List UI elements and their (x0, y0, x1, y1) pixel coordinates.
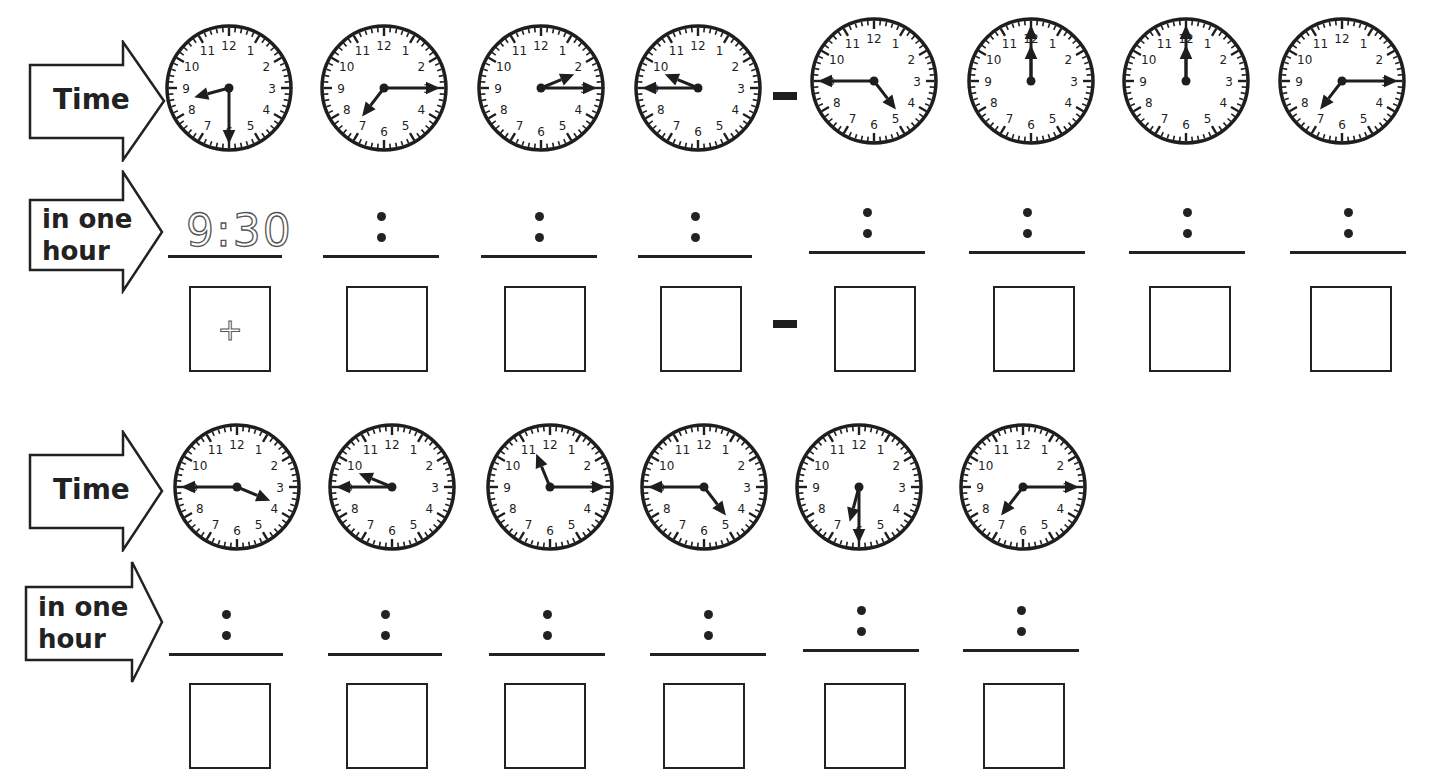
svg-text:11: 11 (521, 443, 536, 457)
answer-box[interactable] (824, 683, 906, 769)
analog-clock-icon: 121234567891011 (318, 22, 450, 154)
svg-text:7: 7 (359, 119, 367, 133)
svg-text:6: 6 (700, 524, 708, 538)
answer-box[interactable] (663, 683, 745, 769)
answer-box[interactable] (189, 683, 271, 769)
svg-text:8: 8 (990, 96, 998, 110)
example-operator-symbol: + (191, 312, 269, 347)
svg-text:12: 12 (376, 39, 391, 53)
svg-text:1: 1 (559, 44, 567, 58)
answer-time-field[interactable] (323, 198, 439, 258)
colon-dot-top (704, 610, 713, 619)
answer-box[interactable] (834, 286, 916, 372)
answer-time-field[interactable] (650, 596, 766, 656)
svg-text:8: 8 (196, 502, 204, 516)
colon-dot-top (857, 606, 866, 615)
colon-dot-top (691, 212, 700, 221)
colon-dot-bottom (691, 233, 700, 242)
answer-box[interactable] (346, 286, 428, 372)
svg-text:12: 12 (384, 438, 399, 452)
svg-text:8: 8 (509, 502, 517, 516)
answer-time-field[interactable] (328, 596, 442, 656)
answer-box[interactable] (504, 683, 586, 769)
colon-dot-bottom (1017, 627, 1026, 636)
svg-text:5: 5 (1360, 112, 1368, 126)
svg-text:10: 10 (659, 459, 674, 473)
equals-separator (773, 92, 797, 100)
answer-time-field[interactable] (1290, 194, 1406, 254)
colon-dot-top (1183, 208, 1192, 217)
svg-text:1: 1 (1041, 443, 1049, 457)
svg-text:8: 8 (663, 502, 671, 516)
svg-text:10: 10 (184, 60, 199, 74)
svg-text:7: 7 (367, 518, 375, 532)
answer-time-field[interactable] (481, 198, 597, 258)
colon-dot-bottom (543, 631, 552, 640)
answer-time-field[interactable] (489, 596, 605, 656)
svg-text:1: 1 (892, 37, 900, 51)
answer-box[interactable] (660, 286, 742, 372)
svg-text:10: 10 (829, 53, 844, 67)
svg-text:2: 2 (425, 459, 433, 473)
svg-text:9: 9 (494, 82, 502, 96)
svg-text:11: 11 (355, 44, 370, 58)
answer-box[interactable] (1310, 286, 1392, 372)
svg-text:9: 9 (182, 82, 190, 96)
svg-text:11: 11 (830, 443, 845, 457)
colon-dot-top (863, 208, 872, 217)
answer-underline (489, 653, 605, 656)
answer-box[interactable] (346, 683, 428, 769)
svg-text:8: 8 (1145, 96, 1153, 110)
svg-text:2: 2 (731, 60, 739, 74)
svg-text:7: 7 (673, 119, 681, 133)
svg-text:4: 4 (731, 103, 739, 117)
example-answer-text: 9:30 (186, 205, 293, 256)
svg-text:4: 4 (1375, 96, 1383, 110)
answer-box[interactable]: + (189, 286, 271, 372)
answer-underline (169, 653, 283, 656)
answer-time-field[interactable] (1129, 194, 1245, 254)
answer-underline (638, 255, 752, 258)
answer-time-field[interactable] (169, 596, 283, 656)
analog-clock-icon: 121234567891011 (171, 421, 303, 553)
svg-text:9: 9 (984, 75, 992, 89)
svg-text:5: 5 (1049, 112, 1057, 126)
svg-text:6: 6 (233, 524, 241, 538)
svg-text:8: 8 (500, 103, 508, 117)
svg-text:7: 7 (525, 518, 533, 532)
svg-text:9: 9 (1295, 75, 1303, 89)
svg-text:5: 5 (410, 518, 418, 532)
answer-time-field[interactable]: 9:30 (168, 198, 282, 258)
svg-text:11: 11 (675, 443, 690, 457)
colon-dot-bottom (1023, 229, 1032, 238)
svg-text:6: 6 (870, 118, 878, 132)
answer-box[interactable] (993, 286, 1075, 372)
svg-text:12: 12 (1015, 438, 1030, 452)
in-one-hour-label-line1: in one (38, 594, 128, 620)
colon-dot-top (1017, 606, 1026, 615)
answer-time-field[interactable] (803, 592, 919, 652)
answer-box[interactable] (983, 683, 1065, 769)
answer-underline (963, 649, 1079, 652)
equals-separator (773, 320, 797, 328)
svg-text:5: 5 (568, 518, 576, 532)
answer-time-field[interactable] (809, 194, 925, 254)
svg-text:2: 2 (417, 60, 425, 74)
answer-time-field[interactable] (963, 592, 1079, 652)
svg-text:12: 12 (851, 438, 866, 452)
answer-underline (323, 255, 439, 258)
answer-underline (168, 255, 282, 258)
analog-clock-icon: 121234567891011 (1120, 15, 1252, 147)
answer-time-field[interactable] (969, 194, 1085, 254)
analog-clock-icon: 121234567891011 (965, 15, 1097, 147)
analog-clock-icon: 121234567891011 (484, 421, 616, 553)
answer-time-field[interactable] (638, 198, 752, 258)
svg-text:12: 12 (229, 438, 244, 452)
svg-text:6: 6 (380, 125, 388, 139)
answer-box[interactable] (1149, 286, 1231, 372)
svg-text:1: 1 (247, 44, 255, 58)
answer-box[interactable] (504, 286, 586, 372)
svg-text:10: 10 (1297, 53, 1312, 67)
svg-text:12: 12 (221, 39, 236, 53)
analog-clock-icon: 121234567891011 (793, 421, 925, 553)
